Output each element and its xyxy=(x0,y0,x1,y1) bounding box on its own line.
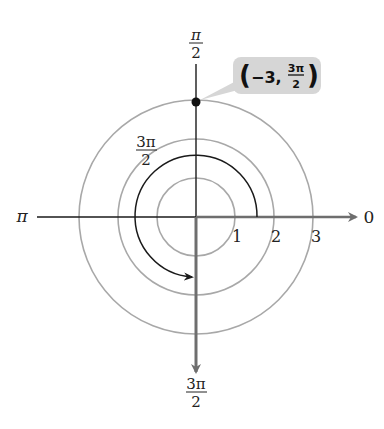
arc-label-numerator: 3π xyxy=(136,133,156,151)
callout-theta-numerator: 3π xyxy=(288,62,305,75)
axis-label-bottom: 3π 2 xyxy=(186,375,207,411)
callout-r-value: −3, xyxy=(251,68,282,87)
top-label-denominator: 2 xyxy=(191,44,201,62)
radial-tick-3: 3 xyxy=(311,227,321,246)
callout-theta-denominator: 2 xyxy=(292,78,300,91)
axis-label-left: π xyxy=(15,206,28,226)
arc-label-denominator: 2 xyxy=(141,151,151,169)
axis-label-right: 0 xyxy=(364,207,375,227)
polar-diagram: ( −3, 3π 2 ) π 2 π 0 3π 2 3π 2 1 2 3 xyxy=(0,0,384,429)
bottom-label-denominator: 2 xyxy=(191,393,201,411)
axis-label-top: π 2 xyxy=(189,26,203,62)
radial-tick-2: 2 xyxy=(271,227,281,246)
callout-tail xyxy=(200,80,238,100)
plotted-point xyxy=(192,98,201,107)
bottom-label-numerator: 3π xyxy=(186,375,206,393)
callout-open-paren: ( xyxy=(239,60,251,90)
radial-tick-1: 1 xyxy=(232,227,242,246)
top-label-numerator: π xyxy=(190,26,202,44)
point-callout: ( −3, 3π 2 ) xyxy=(200,57,321,100)
callout-close-paren: ) xyxy=(307,60,319,90)
